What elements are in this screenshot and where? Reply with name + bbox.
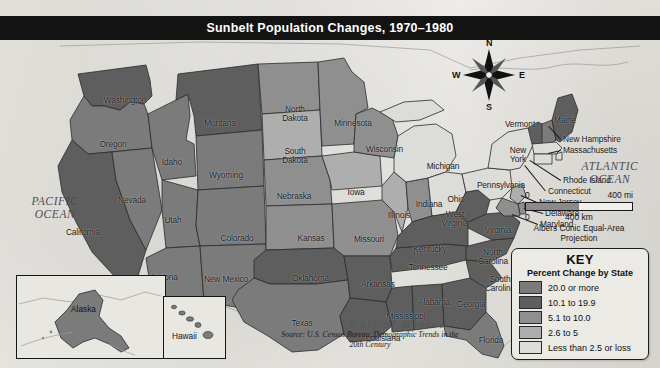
state-label-oregon: Oregon	[90, 140, 136, 149]
map-legend: KEY Percent Change by State 20.0 or more…	[511, 248, 649, 360]
scale-zero-top: 0	[525, 190, 530, 200]
scale-km-label: 400 km	[565, 212, 593, 222]
state-utah	[162, 180, 200, 248]
state-label-colorado: Colorado	[211, 234, 263, 243]
state-label-maine: Maine	[547, 116, 583, 125]
state-label-ohio: Ohio	[441, 195, 471, 204]
state-iowa	[322, 152, 382, 190]
state-label-south-dakota: South Dakota	[274, 147, 316, 166]
legend-swatch	[519, 311, 542, 324]
legend-label: 2.6 to 5	[548, 328, 578, 338]
state-label-wyoming: Wyoming	[200, 171, 252, 180]
legend-entry: 20.0 or more	[512, 280, 648, 295]
state-label-missouri: Missouri	[345, 235, 393, 244]
state-label-texas: Texas	[283, 319, 321, 328]
state-label-nevada: Nevada	[110, 196, 154, 205]
state-label-mississippi: Mississippi	[376, 312, 436, 321]
hawaii-label: Hawaii	[172, 331, 197, 341]
sunbelt-population-map: Sunbelt Population Changes, 1970–1980 PA…	[0, 0, 660, 368]
state-label-north-dakota: North Dakota	[274, 105, 316, 124]
legend-label: 20.0 or more	[548, 283, 599, 293]
state-connecticut	[534, 154, 552, 164]
state-label-pennsylvania: Pennsylvania	[468, 181, 534, 190]
projection-label: Albers Conic Equal-Area Projection	[520, 224, 638, 243]
legend-swatch	[519, 281, 542, 294]
state-label-north-carolina: North Carolina	[470, 248, 516, 267]
legend-title: KEY	[512, 252, 648, 267]
compass-west-label: W	[452, 70, 461, 80]
compass-east-label: E	[519, 70, 525, 80]
state-label-oklahoma: Oklahoma	[283, 274, 338, 283]
state-missouri	[332, 200, 398, 256]
legend-entry: 5.1 to 10.0	[512, 310, 648, 325]
state-label-idaho: Idaho	[155, 158, 189, 167]
state-label-iowa: Iowa	[341, 188, 371, 197]
state-label-minnesota: Minnesota	[325, 119, 381, 128]
state-label-illinois: Illinois	[379, 211, 419, 220]
state-label-west-virginia: West Virginia	[434, 210, 476, 229]
legend-label: 10.1 to 19.9	[548, 298, 596, 308]
state-label-virginia: Virginia	[476, 226, 520, 235]
legend-swatch	[519, 296, 542, 309]
state-label-florida: Florida	[470, 336, 512, 345]
hawaii-inset: Hawaii	[163, 296, 226, 359]
state-label-california: California	[54, 228, 112, 237]
legend-entry: 10.1 to 19.9	[512, 295, 648, 310]
state-label-arkansas: Arkansas	[352, 280, 404, 289]
state-label-new-mexico: New Mexico	[194, 275, 258, 284]
state-label-new-york: New York	[503, 146, 533, 165]
state-label-vermont: Vermont	[497, 120, 543, 129]
map-title-bar: Sunbelt Population Changes, 1970–1980	[0, 16, 660, 40]
state-label-kansas: Kansas	[289, 234, 333, 243]
state-wyoming	[196, 130, 264, 190]
state-label-georgia: Georgia	[448, 300, 494, 309]
legend-entry: Less than 2.5 or loss	[512, 340, 648, 355]
callout-label-new-hampshire: New Hampshire	[563, 135, 655, 144]
legend-label: 5.1 to 10.0	[548, 313, 591, 323]
alaska-label: Alaska	[71, 304, 96, 314]
state-label-nebraska: Nebraska	[268, 192, 320, 201]
legend-entry: 2.6 to 5	[512, 325, 648, 340]
scale-miles-label: 400 mi	[607, 190, 633, 200]
legend-swatch	[519, 326, 542, 339]
source-note: Source: U.S. Census Bureau, Demographic …	[280, 330, 460, 349]
pacific-ocean-label: PACIFIC OCEAN	[12, 195, 98, 221]
state-label-utah: Utah	[158, 216, 188, 225]
state-label-washington: Washington	[94, 96, 156, 105]
state-label-michigan: Michigan	[418, 162, 468, 171]
legend-subtitle: Percent Change by State	[512, 268, 648, 278]
scale-zero-bottom: 0	[525, 212, 530, 222]
state-label-wisconsin: Wisconsin	[357, 145, 412, 154]
compass-south-label: S	[486, 102, 492, 112]
alaska-inset: Alaska	[16, 275, 166, 359]
state-label-tennessee: Tennessee	[399, 263, 457, 272]
legend-swatch	[519, 341, 542, 354]
callout-label-massachusetts: Massachusetts	[563, 146, 655, 155]
page-title: Sunbelt Population Changes, 1970–1980	[206, 21, 453, 35]
compass-rose	[455, 41, 523, 109]
scale-track	[525, 202, 633, 211]
callout-label-rhode-island: Rhode Island	[563, 176, 655, 185]
legend-label: Less than 2.5 or loss	[548, 343, 631, 353]
state-label-kentucky: Kentucky	[404, 245, 456, 254]
legend-entries: 20.0 or more10.1 to 19.95.1 to 10.02.6 t…	[512, 280, 648, 355]
scale-bar: 0 400 mi 0 400 km Albers Conic Equal-Are…	[525, 190, 633, 243]
state-label-montana: Montana	[195, 119, 245, 128]
